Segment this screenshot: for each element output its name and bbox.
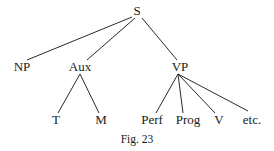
tree-nodes: S NP Aux VP T M Perf Prog V etc. bbox=[14, 3, 262, 127]
edge-aux-t bbox=[58, 74, 80, 113]
node-s: S bbox=[133, 3, 140, 18]
node-vp: VP bbox=[172, 59, 189, 74]
node-perf: Perf bbox=[141, 112, 163, 127]
tree-edges bbox=[27, 17, 248, 113]
edge-vp-v bbox=[178, 74, 215, 113]
edge-s-np bbox=[27, 17, 132, 60]
node-t: T bbox=[52, 112, 60, 127]
node-np: NP bbox=[14, 59, 31, 74]
node-m: M bbox=[95, 112, 107, 127]
node-aux: Aux bbox=[69, 59, 92, 74]
edge-vp-etc bbox=[178, 74, 248, 111]
figure-caption: Fig. 23 bbox=[121, 133, 154, 146]
node-etc: etc. bbox=[243, 112, 261, 127]
edge-s-vp bbox=[142, 18, 177, 60]
edge-vp-perf bbox=[156, 74, 178, 113]
syntax-tree-figure: S NP Aux VP T M Perf Prog V etc. Fig. 23 bbox=[0, 0, 274, 151]
tree-diagram: S NP Aux VP T M Perf Prog V etc. Fig. 23 bbox=[0, 0, 274, 151]
edge-aux-m bbox=[80, 74, 99, 113]
node-prog: Prog bbox=[176, 112, 201, 127]
edge-s-aux bbox=[87, 18, 135, 60]
edge-vp-prog bbox=[178, 74, 183, 113]
node-v: V bbox=[214, 112, 224, 127]
